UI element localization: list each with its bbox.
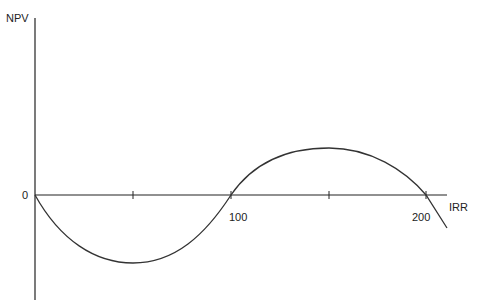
y-axis-label: NPV: [6, 12, 29, 24]
origin-label: 0: [22, 189, 28, 201]
x-tick-label-100: 100: [229, 211, 247, 223]
npv-irr-chart: NPV 0 100 200 IRR: [0, 0, 481, 300]
x-axis-label: IRR: [449, 201, 468, 213]
npv-curve: [35, 148, 447, 263]
x-tick-label-200: 200: [412, 211, 430, 223]
